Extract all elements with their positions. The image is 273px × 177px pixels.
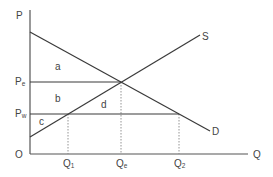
q1-label: Q1 bbox=[63, 158, 75, 169]
region-d-label: d bbox=[101, 99, 107, 110]
supply-curve bbox=[30, 35, 200, 137]
price-axis-label: P bbox=[16, 10, 23, 21]
pw-label: Pw bbox=[15, 108, 27, 119]
supply-label: S bbox=[202, 31, 209, 42]
region-b-label: b bbox=[55, 93, 61, 104]
supply-demand-diagram: P Q O S D Pe Pw Q1 Qe Q2 a b c d bbox=[0, 0, 273, 177]
quantity-axis-label: Q bbox=[253, 149, 261, 160]
region-a-label: a bbox=[55, 61, 61, 72]
q2-label: Q2 bbox=[174, 158, 186, 169]
pe-label: Pe bbox=[15, 76, 26, 87]
origin-label: O bbox=[15, 149, 23, 160]
qe-label: Qe bbox=[116, 158, 128, 169]
region-c-label: c bbox=[39, 116, 44, 127]
demand-label: D bbox=[212, 126, 219, 137]
